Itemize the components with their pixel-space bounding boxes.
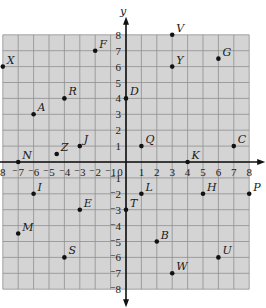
y-tick-label: ⁻2	[110, 188, 122, 200]
x-tick-label: ⁻6	[28, 166, 40, 178]
y-tick-label: 2	[116, 124, 122, 136]
y-tick-label: 3	[116, 108, 122, 120]
point-marker	[170, 33, 175, 38]
x-tick-label: ⁻4	[59, 166, 71, 178]
x-tick-label: ⁻3	[74, 166, 86, 178]
point-marker	[16, 160, 21, 165]
point-label: R	[67, 85, 76, 98]
point-marker	[31, 192, 36, 197]
point-label: S	[68, 244, 76, 257]
point-marker	[216, 56, 221, 61]
point-marker	[124, 207, 129, 212]
point-label: N	[21, 149, 32, 162]
point-label: D	[129, 85, 139, 98]
point-marker	[54, 152, 59, 157]
y-tick-label: ⁻8	[110, 283, 122, 295]
x-tick-label: 1	[139, 166, 145, 178]
x-tick-label: 2	[154, 166, 160, 178]
point-label: F	[98, 38, 107, 51]
point-marker	[78, 144, 83, 149]
y-axis-arrow-down-icon	[123, 299, 129, 307]
x-tick-label: 8	[0, 166, 6, 178]
coordinate-grid: y 8⁻7⁻6⁻5⁻4⁻3⁻2⁻1012345678 12345678⁻1⁻2⁻…	[0, 0, 266, 308]
x-tick-label: 5	[200, 166, 206, 178]
point-label: U	[222, 244, 232, 257]
point-marker	[31, 112, 36, 117]
point-label: E	[83, 197, 92, 210]
point-marker	[62, 255, 67, 260]
y-tick-label: 7	[116, 45, 122, 57]
point-marker	[78, 207, 83, 212]
y-tick-label: 4	[116, 92, 122, 104]
x-tick-label: ⁻5	[43, 166, 55, 178]
y-axis-label: y	[119, 5, 127, 18]
point-label: Z	[60, 141, 69, 154]
point-marker	[139, 192, 144, 197]
point-label: Q	[145, 133, 154, 146]
y-tick-label: ⁻7	[110, 267, 122, 279]
point-marker	[155, 239, 160, 244]
x-axis-arrow-icon	[257, 159, 265, 165]
point-marker	[93, 48, 98, 53]
point-marker	[139, 144, 144, 149]
y-tick-label: ⁻3	[110, 204, 122, 216]
y-tick-label: 5	[116, 77, 122, 89]
point-label: V	[176, 22, 185, 35]
point-label: K	[191, 149, 201, 162]
x-tick-label: 3	[169, 166, 175, 178]
x-tick-label: ⁻7	[12, 166, 24, 178]
point-label: C	[238, 133, 247, 146]
y-tick-label: ⁻1	[110, 172, 122, 184]
point-label: J	[82, 133, 89, 146]
point-v: V	[170, 22, 185, 37]
point-label: G	[222, 46, 231, 59]
point-marker	[201, 192, 206, 197]
point-marker	[124, 96, 129, 101]
y-tick-label: ⁻6	[110, 251, 122, 263]
point-marker	[185, 160, 190, 165]
point-label: X	[6, 54, 16, 67]
point-label: A	[37, 101, 46, 114]
point-label: W	[176, 260, 189, 273]
y-tick-label: ⁻4	[110, 220, 122, 232]
point-marker	[216, 255, 221, 260]
y-tick-label: 6	[116, 61, 122, 73]
point-marker	[232, 144, 237, 149]
point-marker	[170, 271, 175, 276]
point-marker	[16, 231, 21, 236]
point-label: M	[21, 221, 34, 234]
point-marker	[247, 192, 252, 197]
y-tick-label: 1	[116, 140, 122, 152]
point-marker	[1, 64, 6, 69]
point-label: I	[37, 181, 43, 194]
y-axis-arrow-up-icon	[123, 17, 129, 25]
x-tick-label: 6	[216, 166, 222, 178]
point-label: L	[144, 181, 152, 194]
point-label: P	[252, 181, 261, 194]
y-tick-label: ⁻5	[110, 236, 122, 248]
x-tick-label: 8	[246, 166, 252, 178]
point-label: H	[206, 181, 217, 194]
point-marker	[62, 96, 67, 101]
x-tick-label: 7	[231, 166, 237, 178]
y-tick-label: 8	[116, 29, 122, 41]
point-marker	[170, 64, 175, 69]
x-tick-label: 4	[185, 166, 191, 178]
x-tick-label: ⁻2	[89, 166, 101, 178]
point-label: B	[160, 229, 169, 242]
